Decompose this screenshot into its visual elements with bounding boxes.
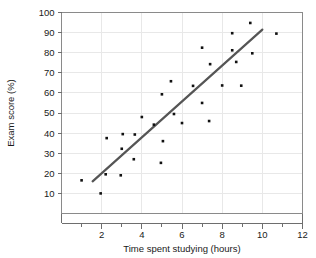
- data-points-group: [80, 22, 277, 195]
- data-point: [201, 46, 204, 49]
- y-tick-label: 70: [44, 67, 55, 78]
- data-point: [249, 22, 252, 25]
- data-point: [133, 158, 136, 161]
- data-point: [235, 61, 238, 64]
- data-point: [153, 123, 156, 126]
- data-point: [173, 113, 176, 116]
- data-point: [181, 122, 184, 125]
- chart-canvas: 24681012 102030405060708090100 Time spen…: [0, 0, 316, 258]
- data-point: [134, 133, 137, 136]
- data-point: [251, 52, 254, 55]
- data-point: [160, 162, 163, 165]
- x-tick-label: 4: [139, 229, 144, 240]
- data-point: [208, 120, 211, 123]
- data-point: [209, 63, 212, 66]
- x-tick-label: 10: [257, 229, 268, 240]
- y-tick-label: 10: [44, 188, 55, 199]
- data-point: [170, 80, 173, 83]
- data-point: [104, 173, 107, 176]
- data-point: [221, 84, 224, 87]
- data-point: [275, 32, 278, 35]
- gridlines-group: [62, 13, 303, 214]
- y-tick-label: 40: [44, 128, 55, 139]
- data-point: [231, 49, 234, 52]
- data-point: [240, 84, 243, 87]
- data-point: [201, 102, 204, 105]
- y-tick-label: 20: [44, 168, 55, 179]
- x-axis: 24681012: [62, 214, 308, 241]
- y-tick-label: 90: [44, 27, 55, 38]
- y-axis-title: Exam score (%): [5, 79, 16, 147]
- axis-titles: Time spent studying (hours)Exam score (%…: [5, 79, 241, 254]
- y-tick-label: 50: [44, 107, 55, 118]
- y-tick-label: 60: [44, 87, 55, 98]
- x-tick-label: 2: [99, 229, 104, 240]
- data-point: [141, 116, 144, 119]
- x-axis-title: Time spent studying (hours): [123, 243, 240, 254]
- data-point: [119, 174, 122, 177]
- data-point: [231, 32, 234, 35]
- x-tick-label: 12: [297, 229, 308, 240]
- scatter-chart: 24681012 102030405060708090100 Time spen…: [0, 0, 316, 258]
- data-point: [121, 133, 124, 136]
- data-point: [80, 179, 83, 182]
- data-point: [99, 192, 102, 195]
- y-tick-label: 30: [44, 148, 55, 159]
- y-tick-label: 80: [44, 47, 55, 58]
- data-point: [105, 137, 108, 140]
- data-point: [161, 93, 164, 96]
- data-point: [120, 147, 123, 150]
- data-point: [192, 85, 195, 88]
- x-tick-label: 6: [179, 229, 184, 240]
- data-point: [162, 140, 165, 143]
- y-axis: 102030405060708090100: [39, 7, 62, 199]
- x-tick-label: 8: [220, 229, 225, 240]
- y-tick-label: 100: [39, 7, 55, 18]
